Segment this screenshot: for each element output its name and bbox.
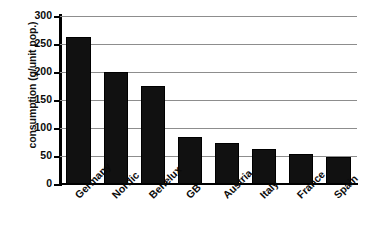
y-axis-tick-mark [54,128,60,130]
y-axis-tick-mark [54,184,60,186]
x-axis-tick-label: Spain [332,173,360,201]
x-axis-tick-label: Benelux [147,164,184,201]
x-axis-tick-label: Germany [73,161,113,201]
y-axis-tick-mark [54,72,60,74]
x-axis-tick-labels: GermanyNordicBeneluxGBAustriaItalyFrance… [0,0,372,244]
y-axis-tick-mark [54,100,60,102]
y-axis-tick-mark [54,156,60,158]
bar-chart: consumption (g/unit pop.) 30025020015010… [0,0,372,244]
x-axis-tick-label: France [295,169,327,201]
y-axis-tick-mark [54,44,60,46]
y-axis-tick-mark [54,16,60,18]
x-axis-tick-label: Italy [258,178,281,201]
x-axis-tick-label: Nordic [110,169,141,200]
x-axis-tick-label: GB [184,182,203,201]
x-axis-tick-label: Austria [221,167,254,200]
